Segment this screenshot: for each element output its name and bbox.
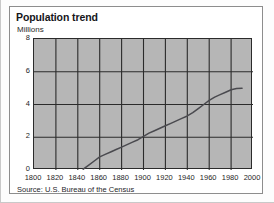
y-tick-label: 4 [26,100,30,108]
y-tick-label: 6 [26,67,30,75]
x-tick-label: 1900 [134,174,151,182]
x-tick-label: 1960 [200,174,217,182]
source-note: Source: U.S. Bureau of the Census [17,185,134,194]
y-axis-label: Millions [17,25,44,34]
chart-page: Population trend Millions 02468 18001820… [0,0,274,203]
chart-card: Population trend Millions 02468 18001820… [9,6,263,194]
x-tick-label: 1980 [222,174,239,182]
x-tick-label: 1860 [90,174,107,182]
x-tick-label: 1840 [68,174,85,182]
plot-area-wrapper [33,38,252,169]
x-tick-label: 1940 [178,174,195,182]
plot-area [33,38,252,169]
x-tick-label: 2000 [244,174,261,182]
x-tick-label: 1800 [25,174,42,182]
x-axis-tick-labels: 1800182018401860188019001920194019601980… [33,174,252,185]
series-line [83,88,242,169]
x-tick-label: 1880 [112,174,129,182]
y-tick-label: 8 [26,34,30,42]
y-tick-label: 0 [26,165,30,173]
page-title: Population trend [16,11,98,23]
y-tick-label: 2 [26,132,30,140]
page-left-rule [0,0,1,203]
line-chart-svg [34,39,253,170]
y-axis-tick-labels: 02468 [20,38,30,169]
x-tick-label: 1820 [47,174,64,182]
page-bottom-rule [0,202,274,203]
series-lines [83,88,242,169]
x-tick-label: 1920 [156,174,173,182]
